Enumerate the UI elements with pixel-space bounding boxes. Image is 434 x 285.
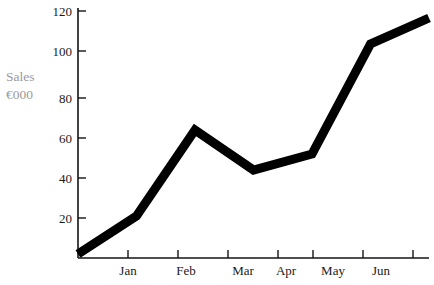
x-tick-label-feb: Feb [176,263,196,278]
x-tick-label-may: May [321,263,345,278]
line-chart: 20 40 60 80 100 120 Jan Feb Mar Apr May … [0,0,434,285]
sales-line-series [78,18,429,254]
y-axis-title: Sales €000 [6,69,35,102]
x-axis-tick-labels: Jan Feb Mar Apr May Jun [119,263,390,278]
x-tick-label-jan: Jan [119,263,137,278]
y-tick-label: 120 [53,4,73,19]
y-axis-title-line-1: Sales [6,69,35,84]
y-tick-label: 20 [59,211,72,226]
x-axis-ticks [128,250,413,258]
y-tick-label: 60 [59,131,72,146]
x-tick-label-jun: Jun [372,263,391,278]
y-tick-label: 100 [53,44,73,59]
chart-canvas: 20 40 60 80 100 120 Jan Feb Mar Apr May … [0,0,434,285]
y-axis-ticks [78,11,86,218]
x-tick-label-mar: Mar [232,263,254,278]
y-tick-label: 80 [59,91,72,106]
x-tick-label-apr: Apr [276,263,297,278]
y-axis-title-line-2: €000 [6,87,33,102]
y-axis-tick-labels: 20 40 60 80 100 120 [53,4,73,226]
y-tick-label: 40 [59,171,72,186]
